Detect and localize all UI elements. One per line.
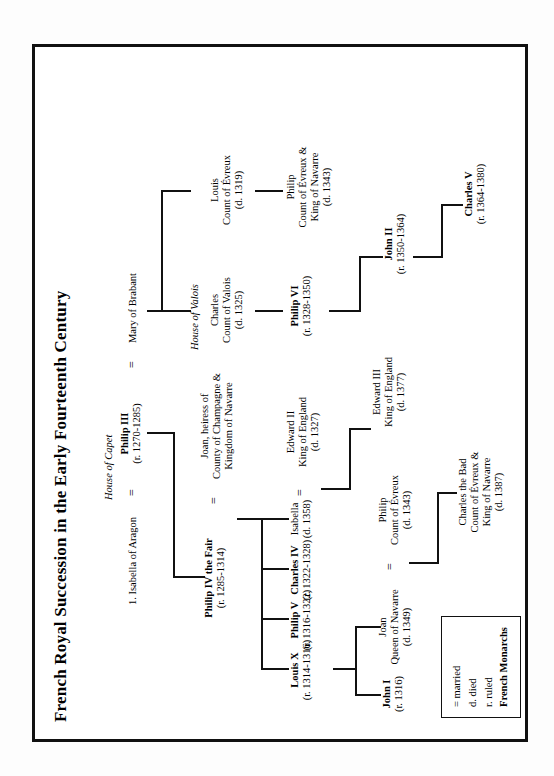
person-john-ii: John II (r. 1350-1364) [383,192,407,296]
person-line2: King of England [383,338,395,446]
connector-down-edward-iii [349,428,371,430]
legend-box: = married d. died r. ruled French Monarc… [441,616,521,718]
connector-john2-down [413,256,443,258]
connector-down-philip4 [173,576,205,578]
person-dates: (d. 1349) [401,578,413,676]
connector-philip3-down [147,432,175,434]
person-name: John II [383,192,395,296]
figure-title: French Royal Succession in the Early Fou… [51,291,71,722]
person-line2: Queen of Navarre [389,578,401,676]
connector-valois-evreux-bar [161,190,163,312]
person-dates: (d. 1387) [493,438,505,546]
connector-down-louis-x [261,668,289,670]
marriage-symbol-joan-philip-evreux: = [383,563,398,570]
person-name: Louis [209,142,221,238]
person-line2: Count of Évreux & [469,438,481,546]
person-philip-iv-the-fair: Philip IV the Fair (r. 1285-1314) [203,512,227,644]
person-edward-ii: Edward II King of England (d. 1327) [285,378,321,486]
person-charles-the-bad: Charles the Bad Count of Évreux & King o… [457,438,505,546]
person-joan-heiress-navarre: Joan, heiress of County of Champagne & K… [199,360,235,492]
person-dates: (r. 1364-1380) [475,142,487,246]
connector-philip4-down [237,518,263,520]
connector-down-charles-iv [261,568,289,570]
person-mary-of-brabant: Mary of Brabant [127,258,139,358]
connector-to-charles-v [441,204,443,258]
person-dates: (d. 1377) [395,338,407,446]
person-line3: Kingdom of Navarre [223,360,235,492]
connector-louis-evreux-down [255,190,283,192]
person-line2: Count of Évreux & [297,136,309,238]
connector-down-charles-valois [161,310,191,312]
person-line2: Count of Évreux [221,142,233,238]
figure-frame: French Royal Succession in the Early Fou… [32,44,528,742]
person-edward-iii: Edward III King of England (d. 1377) [371,338,407,446]
person-name: Philip [285,136,297,238]
person-name: 1. Isabella of Aragon [127,506,139,616]
connector-louis-x-down [333,668,357,670]
person-philip-iii: Philip III (r. 1270-1285) [119,381,143,486]
person-philip-evreux-navarre: Philip Count of Évreux & King of Navarre… [285,136,333,238]
person-name: Edward III [371,338,383,446]
legend-died: d. died [465,627,481,707]
connector-edward2-down [321,488,351,490]
person-isabella: Isabella (d. 1358) [289,474,313,564]
person-dates: (d. 1343) [321,136,333,238]
person-dates: (d. 1343) [401,460,413,560]
person-name: Philip IV the Fair [203,512,215,644]
connector-down-charles-the-bad [437,492,457,494]
connector-to-charles-the-bad [437,492,439,564]
legend-married: = married [449,627,465,707]
person-name: Philip VI [289,254,301,358]
person-dates: (d. 1327) [309,378,321,486]
person-dates: (r. 1285-1314) [215,512,227,644]
connector-to-john-ii [359,256,361,312]
house-of-capet-label: House of Capet [103,435,114,500]
person-line3: King of Navarre [309,136,321,238]
house-of-valois-label: House of Valois [189,284,200,350]
connector-charles-valois-down [255,310,283,312]
person-line3: King of Navarre [481,438,493,546]
connector-louis-x-children-bar [355,626,357,696]
connector-philip4-children-bar [261,518,263,670]
person-line2: Count of Évreux [389,460,401,560]
connector-down-philip-v [261,618,289,620]
person-name: Philip III [119,381,131,486]
person-isabella-of-aragon: 1. Isabella of Aragon [127,506,139,616]
person-name: Joan [377,578,389,676]
person-louis-count-of-evreux: Louis Count of Évreux (d. 1319) [209,142,245,238]
connector-down-charles-v [441,204,463,206]
connector-down-louis-evreux [161,190,191,192]
person-line2: King of England [297,378,309,486]
person-name: Charles the Bad [457,438,469,546]
connector-to-edward-iii [349,428,351,490]
person-charles-v: Charles V (r. 1364-1380) [463,142,487,246]
person-line2: Count of Valois [221,262,233,358]
rotated-diagram-container: French Royal Succession in the Early Fou… [37,50,523,736]
connector-down-john-i [355,694,381,696]
marriage-symbol-isabella-edward2: = [293,489,308,496]
marriage-symbol-philip3-isabella: = [125,489,140,496]
connector-philip3-to-philip4 [173,432,175,578]
person-philip-vi: Philip VI (r. 1328-1350) [289,254,313,358]
figure-page: French Royal Succession in the Early Fou… [0,0,554,776]
person-joan-queen-of-navarre: Joan Queen of Navarre (d. 1349) [377,578,413,676]
connector-down-john-ii [359,256,383,258]
marriage-symbol-philip3-mary: = [125,361,140,368]
legend-ruled: r. ruled [481,627,497,707]
person-name: Joan, heiress of [199,360,211,492]
person-dates: (r. 1350-1364) [395,192,407,296]
marriage-symbol-philip4-joan: = [207,497,222,504]
connector-philip-evreux-down [409,562,439,564]
person-dates: (d. 1319) [233,142,245,238]
genealogy-canvas: French Royal Succession in the Early Fou… [37,50,523,736]
person-name: Philip [377,460,389,560]
connector-philip6-down [329,310,361,312]
person-philip-count-of-evreux: Philip Count of Évreux (d. 1343) [377,460,413,560]
person-dates: (r. 1328-1350) [301,254,313,358]
person-name: Isabella [289,474,301,564]
person-name: Charles [209,262,221,358]
person-dates: (d. 1325) [233,262,245,358]
person-name: Edward II [285,378,297,486]
connector-down-isabella [261,518,289,520]
person-name: Mary of Brabant [127,258,139,358]
